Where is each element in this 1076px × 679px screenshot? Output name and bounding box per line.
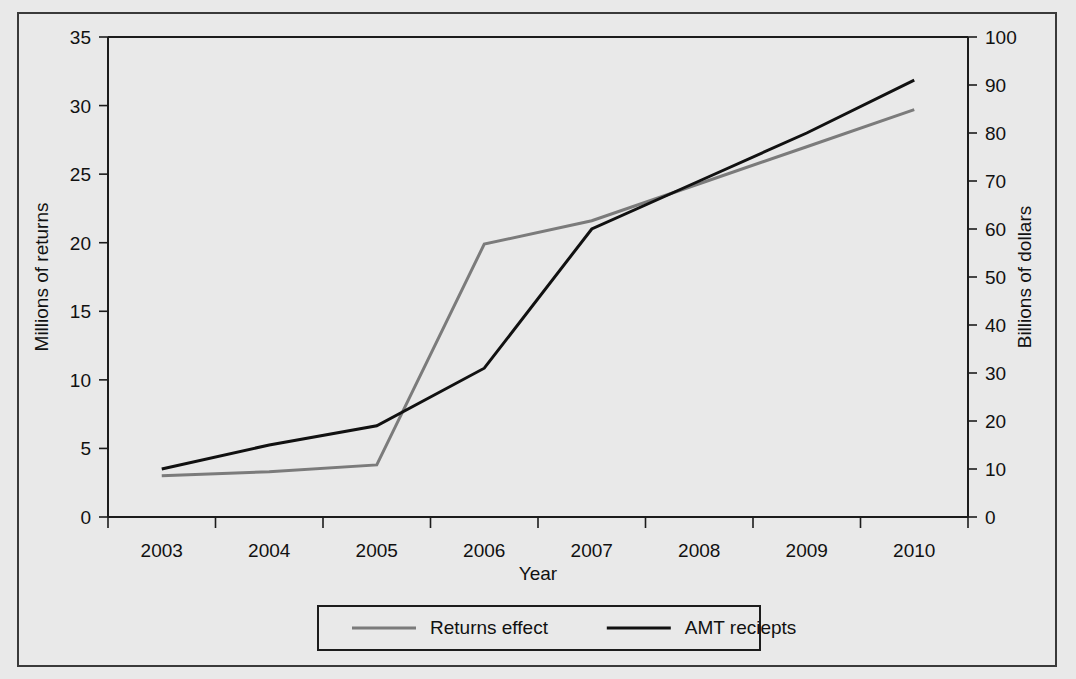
y-axis-left-tick-label: 10 (70, 370, 91, 391)
y-axis-right-tick-label: 10 (985, 459, 1006, 480)
y-axis-right-tick-label: 50 (985, 267, 1006, 288)
y-axis-right-tick-label: 80 (985, 123, 1006, 144)
y-axis-right-tick-label: 0 (985, 507, 996, 528)
y-axis-left-tick-label: 35 (70, 27, 91, 48)
x-axis-tick-label: 2005 (356, 540, 398, 561)
y-axis-left-tick-label: 25 (70, 164, 91, 185)
y-axis-left-ticks: 05101520253035 (70, 27, 108, 528)
y-axis-right-tick-label: 60 (985, 219, 1006, 240)
x-axis-tick-label: 2006 (463, 540, 505, 561)
chart-legend: Returns effectAMT reciepts (318, 606, 796, 650)
y-axis-left-tick-label: 30 (70, 96, 91, 117)
y-axis-right-ticks: 0102030405060708090100 (968, 27, 1017, 528)
legend-label-0: Returns effect (430, 617, 549, 638)
y-axis-left-tick-label: 0 (80, 507, 91, 528)
y-axis-right-tick-label: 30 (985, 363, 1006, 384)
y-axis-right-tick-label: 70 (985, 171, 1006, 192)
legend-label-1: AMT reciepts (685, 617, 797, 638)
x-axis-tick-label: 2009 (786, 540, 828, 561)
y-axis-left-tick-label: 20 (70, 233, 91, 254)
x-axis-ticks: 20032004200520062007200820092010 (108, 517, 968, 561)
data-series-group (162, 80, 915, 476)
y-axis-right-tick-label: 90 (985, 75, 1006, 96)
y-axis-right-tick-label: 20 (985, 411, 1006, 432)
x-axis-tick-label: 2008 (678, 540, 720, 561)
x-axis-tick-label: 2004 (248, 540, 291, 561)
plot-axes (108, 37, 968, 517)
x-axis-tick-label: 2003 (141, 540, 183, 561)
y-axis-right-tick-label: 100 (985, 27, 1017, 48)
figure-container: 05101520253035 0102030405060708090100 20… (0, 0, 1076, 679)
series-line-amt-reciepts (162, 80, 915, 469)
y-axis-right-title: Billions of dollars (1014, 206, 1035, 349)
y-axis-right-tick-label: 40 (985, 315, 1006, 336)
series-line-returns-effect (162, 110, 915, 476)
y-axis-left-tick-label: 5 (80, 438, 91, 459)
line-chart: 05101520253035 0102030405060708090100 20… (0, 0, 1076, 679)
x-axis-tick-label: 2010 (893, 540, 935, 561)
x-axis-tick-label: 2007 (571, 540, 613, 561)
y-axis-left-title: Millions of returns (31, 203, 52, 352)
y-axis-left-tick-label: 15 (70, 301, 91, 322)
x-axis-title: Year (519, 563, 558, 584)
